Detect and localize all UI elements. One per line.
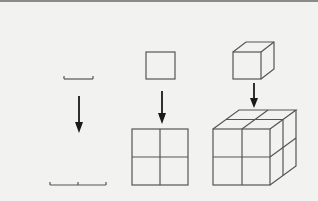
source-segment (64, 76, 93, 79)
dimension-doubling-diagram (0, 0, 318, 201)
panel-three-dimension (213, 42, 296, 185)
result-square-grid (132, 129, 188, 185)
panel-one-dimension (50, 76, 106, 185)
panel-two-dimension (132, 52, 188, 185)
source-cube (233, 42, 274, 79)
diagram-canvas (0, 0, 318, 201)
source-square (146, 52, 175, 79)
result-cube (213, 110, 296, 185)
down-arrow-icon (75, 96, 83, 133)
result-segment (50, 182, 106, 185)
down-arrow-icon (158, 91, 166, 124)
down-arrow-icon (250, 83, 258, 108)
